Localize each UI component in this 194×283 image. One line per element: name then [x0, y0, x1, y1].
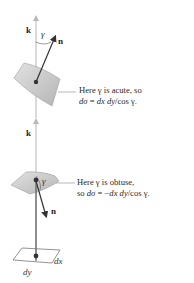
base-point-lower — [34, 178, 39, 183]
n-label-lower: n — [51, 206, 56, 216]
caption-acute-line2: dσ = dx dy/cos γ. — [79, 96, 142, 107]
caption-obtuse-line1: Here γ is obtuse, — [77, 177, 150, 188]
k-label-upper: k — [26, 25, 31, 35]
equals-text: = — [88, 96, 97, 106]
dy-label: dy — [23, 267, 32, 277]
so-text: so — [77, 188, 87, 198]
dx-dy-text: dx dy — [97, 96, 115, 106]
base-area-element: dx dy — [13, 248, 63, 277]
base-point-upper — [34, 80, 38, 84]
d-sigma-text: dσ — [79, 96, 88, 106]
caption-obtuse: Here γ is obtuse, so dσ = −dx dy/cos γ. — [77, 177, 150, 199]
k-label-lower: k — [26, 128, 31, 138]
cos-gamma-text: /cos γ. — [115, 96, 137, 106]
gamma-label-upper: γ — [41, 29, 45, 39]
caption-acute-line1: Here γ is acute, so — [79, 85, 142, 96]
dx-label: dx — [54, 256, 63, 266]
cos-gamma-text: /cos γ. — [128, 188, 150, 198]
surface-patch-lower — [11, 172, 59, 194]
n-label-upper: n — [58, 36, 63, 46]
surface-patch-upper — [14, 63, 60, 106]
equals-minus-text: = − — [95, 188, 109, 198]
gamma-label-lower: γ — [42, 176, 46, 186]
angle-arc-upper — [36, 42, 51, 44]
surface-normal-diagram: k γ n k γ n dx dy — [0, 0, 194, 283]
caption-obtuse-line2: so dσ = −dx dy/cos γ. — [77, 188, 150, 199]
base-point-projection — [34, 254, 39, 259]
dx-dy-text: dx dy — [109, 188, 127, 198]
caption-acute: Here γ is acute, so dσ = dx dy/cos γ. — [79, 85, 142, 107]
lower-section: k γ n — [11, 121, 75, 261]
upper-section: k γ n — [14, 18, 76, 118]
